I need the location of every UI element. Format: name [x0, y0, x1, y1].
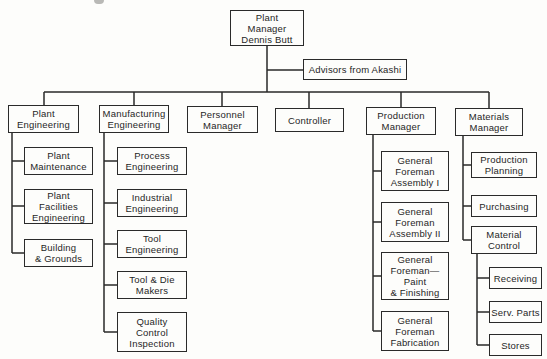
connector-top-bus: [44, 46, 489, 108]
org-chart-connector-lines: [0, 0, 547, 359]
box-general-foreman-assembly-2: General Foreman Assembly II: [381, 202, 449, 242]
box-controller: Controller: [275, 108, 344, 132]
box-production-manager: Production Manager: [366, 107, 436, 135]
box-stores: Stores: [489, 334, 542, 356]
box-process-engineering: Process Engineering: [117, 147, 187, 175]
box-personnel-manager: Personnel Manager: [187, 106, 258, 133]
box-plant-manager: Plant Manager Dennis Butt: [230, 10, 304, 46]
box-tool-engineering: Tool Engineering: [117, 230, 187, 258]
box-industrial-engineering: Industrial Engineering: [117, 189, 187, 217]
box-manufacturing-engineering: Manufacturing Engineering: [99, 105, 169, 133]
box-general-foreman-assembly-1: General Foreman Assembly I: [381, 151, 449, 191]
box-production-planning: Production Planning: [471, 152, 537, 178]
box-receiving: Receiving: [489, 267, 542, 289]
box-building-and-grounds: Building & Grounds: [24, 239, 93, 267]
box-plant-maintenance: Plant Maintenance: [24, 147, 93, 175]
box-purchasing: Purchasing: [471, 195, 537, 217]
box-material-control: Material Control: [471, 226, 537, 254]
box-serv-parts: Serv. Parts: [489, 301, 542, 323]
box-general-foreman-paint-finishing: General Foreman— Paint & Finishing: [381, 252, 449, 300]
box-advisors-from-akashi: Advisors from Akashi: [303, 59, 407, 80]
connector-material-control: [477, 254, 489, 345]
box-tool-and-die-makers: Tool & Die Makers: [117, 271, 187, 299]
connector-production-manager: [373, 135, 381, 331]
box-materials-manager: Materials Manager: [455, 108, 523, 136]
box-plant-facilities-engineering: Plant Facilities Engineering: [24, 189, 93, 224]
box-general-foreman-fabrication: General Foreman Fabrication: [381, 311, 449, 351]
connector-manufacturing-engineering: [104, 133, 117, 332]
connector-plant-engineering: [12, 133, 24, 253]
org-chart-figure: Plant Manager Dennis Butt Advisors from …: [0, 0, 547, 359]
connector-materials-manager: [463, 136, 471, 240]
box-quality-control-inspection: Quality Control Inspection: [117, 312, 187, 352]
box-plant-engineering: Plant Engineering: [8, 105, 79, 133]
